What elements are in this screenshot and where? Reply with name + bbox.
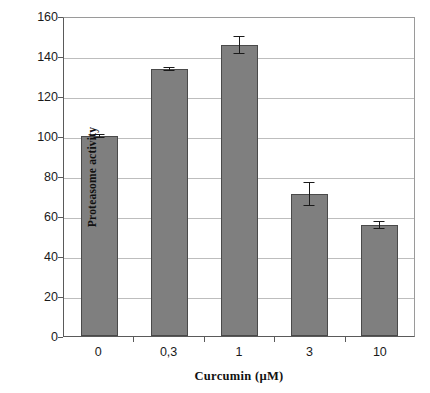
y-axis-tick-label: 120 — [22, 91, 58, 104]
x-axis-title: Curcumin (µM) — [63, 369, 415, 384]
error-bar-cap-top — [304, 182, 315, 183]
error-bar-cap-top — [374, 221, 385, 222]
y-axis-tick-label: 100 — [22, 131, 58, 144]
y-axis-tick-label: 80 — [22, 171, 58, 184]
bar-slot — [204, 18, 274, 336]
y-axis-tick-label: 60 — [22, 211, 58, 224]
plot-area: Proteasome activity — [63, 17, 415, 337]
x-axis-tick-label: 0,3 — [133, 345, 203, 359]
x-axis-tick-mark — [345, 337, 346, 342]
y-axis-tick-mark — [58, 97, 63, 98]
bar-slot — [134, 18, 204, 336]
x-axis-tick-label: 0 — [63, 345, 133, 359]
bar-slot — [344, 18, 414, 336]
x-axis-tick-mark — [274, 337, 275, 342]
bar-chart-figure: 020406080100120140160 Proteasome activit… — [0, 0, 430, 393]
y-axis-tick-label: 20 — [22, 291, 58, 304]
y-axis-tick-label: 160 — [22, 11, 58, 24]
y-axis-tick-mark — [58, 137, 63, 138]
y-axis-tick-mark — [58, 177, 63, 178]
y-axis-tick-mark — [58, 297, 63, 298]
y-axis-tick-mark — [58, 337, 63, 338]
x-axis-tick-label: 1 — [204, 345, 274, 359]
bar-slot — [64, 18, 134, 336]
y-axis-tick-mark — [58, 57, 63, 58]
error-bar-cap-top — [234, 36, 245, 37]
bar — [361, 225, 398, 336]
y-axis-tick-mark — [58, 257, 63, 258]
bar — [291, 194, 328, 336]
x-axis-tick-mark — [204, 337, 205, 342]
bar — [221, 45, 258, 336]
y-axis-title: Proteasome activity — [86, 87, 98, 267]
x-axis-tick-label: 10 — [345, 345, 415, 359]
y-axis-tick-label: 0 — [22, 331, 58, 344]
y-axis-tick-mark — [58, 17, 63, 18]
y-axis-tick-label: 40 — [22, 251, 58, 264]
bar-slot — [274, 18, 344, 336]
bar-series — [64, 18, 414, 336]
x-axis-tick-mark — [133, 337, 134, 342]
y-axis-tick-mark — [58, 217, 63, 218]
y-axis-tick-label: 140 — [22, 51, 58, 64]
x-axis-tick-label: 3 — [274, 345, 344, 359]
x-axis-tick-labels: 00,31310 — [63, 345, 415, 359]
bar — [151, 69, 188, 336]
y-axis-tick-labels: 020406080100120140160 — [18, 0, 58, 393]
